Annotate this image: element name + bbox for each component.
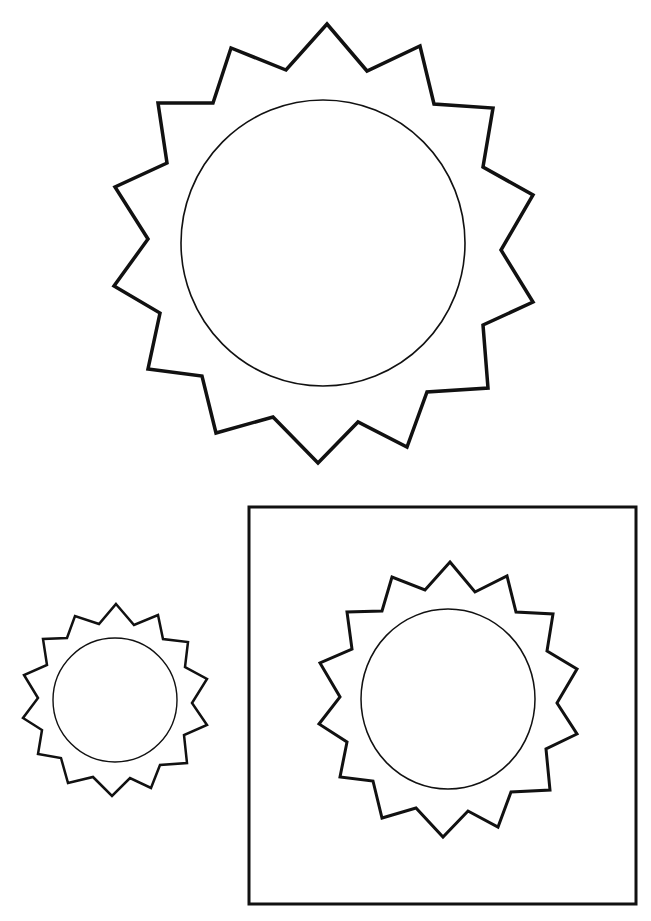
coloring-page-canvas	[0, 0, 651, 921]
